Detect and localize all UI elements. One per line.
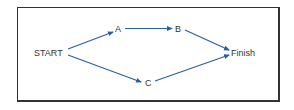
node-b: B: [175, 24, 181, 34]
node-c: C: [145, 78, 152, 88]
edges: [68, 29, 229, 83]
node-start: START: [34, 48, 63, 58]
edge-start-to-a: [68, 32, 113, 49]
edge-c-to-finish: [155, 55, 229, 81]
node-finish: Finish: [231, 48, 255, 58]
edge-b-to-finish: [185, 30, 229, 50]
nodes: START A B C Finish: [34, 24, 255, 89]
node-a: A: [115, 24, 121, 34]
flow-diagram: START A B C Finish: [0, 0, 294, 110]
edge-start-to-c: [68, 55, 141, 82]
